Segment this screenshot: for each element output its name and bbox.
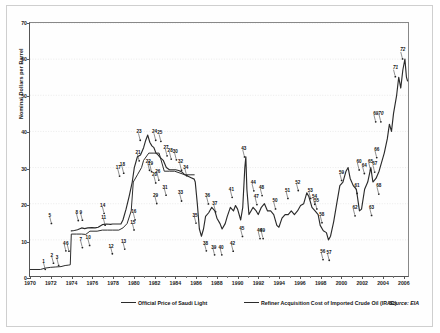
annotation-label: 29	[153, 192, 158, 197]
annotation-label: 59	[339, 169, 344, 174]
x-minor-tick	[61, 276, 62, 278]
annotation-label: 8	[75, 210, 78, 215]
y-tick-mark	[27, 132, 30, 133]
annotation-label: 36	[205, 193, 210, 198]
x-tick-mark	[258, 276, 259, 279]
x-tick-mark	[238, 276, 239, 279]
x-tick-label: 1988	[211, 280, 223, 286]
annotation-label: 16	[131, 209, 136, 214]
annotation-label: 23	[136, 129, 141, 134]
annotation-label: 12	[108, 243, 113, 248]
annotation-label: 33	[178, 190, 183, 195]
x-minor-tick	[331, 276, 332, 278]
annotation-label: 67	[372, 161, 377, 166]
annotation-label: 55	[314, 198, 319, 203]
annotation-label: 31	[162, 184, 167, 189]
x-minor-tick	[248, 276, 249, 278]
annotation-label: 48	[259, 184, 264, 189]
annotation-label: 7	[80, 237, 83, 242]
annotation-label: 50	[272, 198, 277, 203]
annotation-label: 63	[369, 204, 374, 209]
x-minor-tick	[123, 276, 124, 278]
legend-item-irac: Refiner Acquisition Cost of Imported Cru…	[244, 300, 396, 306]
x-tick-label: 2006	[398, 280, 410, 286]
x-tick-label: 1986	[190, 280, 202, 286]
annotation-label: 13	[121, 238, 126, 243]
annotation-label: 1	[42, 259, 45, 264]
annotation-label: 66	[374, 146, 379, 151]
legend-swatch-icon	[121, 302, 136, 303]
x-tick-mark	[30, 276, 31, 279]
annotation-label: 11	[101, 214, 106, 219]
x-tick-label: 2004	[377, 280, 389, 286]
x-tick-mark	[404, 276, 405, 279]
x-minor-tick	[227, 276, 228, 278]
x-tick-mark	[383, 276, 384, 279]
annotation-label: 34	[183, 164, 188, 169]
x-tick-label: 1980	[128, 280, 140, 286]
x-tick-label: 1998	[315, 280, 327, 286]
source-note: Source: EIA	[389, 300, 419, 306]
annotation-label: 35	[193, 212, 198, 217]
x-tick-mark	[134, 276, 135, 279]
annotation-label: 49	[260, 228, 265, 233]
annotation-label: 5	[48, 212, 51, 217]
annotation-label: 61	[354, 182, 359, 187]
x-tick-mark	[113, 276, 114, 279]
y-tick-mark	[27, 96, 30, 97]
annotation-label: 6	[66, 241, 69, 246]
x-tick-mark	[92, 276, 93, 279]
legend-label: Official Price of Saudi Light	[138, 300, 207, 306]
x-tick-label: 1976	[87, 280, 99, 286]
annotation-label: 51	[285, 187, 290, 192]
x-minor-tick	[82, 276, 83, 278]
x-tick-mark	[51, 276, 52, 279]
annotation-label: 30	[173, 148, 178, 153]
x-minor-tick	[269, 276, 270, 278]
annotation-label: 9	[80, 209, 83, 214]
legend-label: Refiner Acquisition Cost of Imported Cru…	[261, 300, 396, 306]
x-minor-tick	[103, 276, 104, 278]
x-minor-tick	[186, 276, 187, 278]
annotation-label: 26	[155, 169, 160, 174]
x-tick-mark	[72, 276, 73, 279]
annotation-label: 41	[229, 186, 234, 191]
annotation-label: 56	[320, 249, 325, 254]
x-minor-tick	[352, 276, 353, 278]
annotation-label: 58	[319, 212, 324, 217]
annotation-label: 18	[120, 162, 125, 167]
y-tick-mark	[27, 23, 30, 24]
annotation-label: 44	[251, 180, 256, 185]
x-tick-label: 1972	[45, 280, 57, 286]
x-tick-mark	[196, 276, 197, 279]
annotation-label: 53	[308, 187, 313, 192]
x-tick-label: 1984	[170, 280, 182, 286]
annotation-label: 39	[211, 244, 216, 249]
plot-area: Nominal Dollars per Barrel 0102030405060…	[29, 22, 409, 277]
x-tick-label: 1982	[149, 280, 161, 286]
x-tick-label: 2000	[336, 280, 348, 286]
x-minor-tick	[290, 276, 291, 278]
x-minor-tick	[310, 276, 311, 278]
annotation-label: 70	[378, 110, 383, 115]
x-tick-label: 1974	[66, 280, 78, 286]
annotation-label: 3	[56, 255, 59, 260]
y-tick-mark	[27, 205, 30, 206]
x-tick-mark	[362, 276, 363, 279]
annotation-label: 68	[376, 183, 381, 188]
x-tick-label: 1994	[273, 280, 285, 286]
x-minor-tick	[393, 276, 394, 278]
chart-page: Nominal Dollars per Barrel 0102030405060…	[0, 0, 440, 333]
annotation-label: 47	[254, 194, 259, 199]
annotation-label: 32	[178, 159, 183, 164]
annotation-label: 43	[241, 145, 246, 150]
x-tick-label: 1970	[24, 280, 36, 286]
x-tick-label: 1996	[294, 280, 306, 286]
annotation-label: 42	[230, 241, 235, 246]
x-tick-mark	[321, 276, 322, 279]
x-tick-label: 1992	[253, 280, 265, 286]
annotation-label: 40	[218, 244, 223, 249]
legend: Official Price of Saudi Light Refiner Ac…	[29, 300, 427, 314]
annotation-label: 57	[326, 250, 331, 255]
annotation-label: 14	[100, 202, 105, 207]
